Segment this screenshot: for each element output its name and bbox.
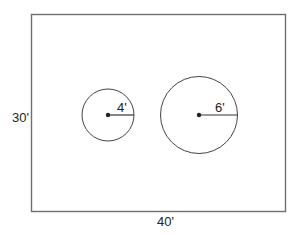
room-width-label: 40' [157,214,174,229]
room-height-label: 30' [12,110,29,125]
large-circle-radius-label: 6' [215,100,225,115]
large-circle-center-dot [197,113,201,117]
room-rectangle [32,15,286,212]
floor-plan-diagram: 4' 6' 30' 40' [0,0,297,235]
small-circle-radius-label: 4' [117,100,127,115]
large-circle-group: 6' [161,77,238,154]
small-circle-center-dot [106,113,110,117]
small-circle-group: 4' [82,89,134,141]
